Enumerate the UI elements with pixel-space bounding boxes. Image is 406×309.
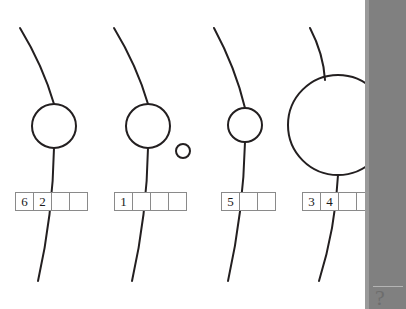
group-3-lower-tail-curve: [228, 142, 245, 281]
right-side-panel: ?: [365, 0, 406, 309]
cell-row-group-2[interactable]: 1: [114, 192, 187, 211]
diagram-canvas: 62 1 5 34 ?: [0, 0, 406, 309]
panel-glyph: ?: [375, 287, 385, 309]
cell-empty[interactable]: [132, 192, 151, 211]
cell-empty[interactable]: [239, 192, 258, 211]
group-1-lower-tail-curve: [38, 148, 54, 281]
cell-filled[interactable]: 2: [33, 192, 52, 211]
group-4-lower-tail-curve: [319, 175, 338, 281]
group-2-upper-stem-curve: [114, 28, 148, 104]
cell-filled[interactable]: 5: [221, 192, 240, 211]
group-2-satellite-circle: [176, 144, 190, 158]
cell-filled[interactable]: 1: [114, 192, 133, 211]
panel-corner-mark: ?: [373, 283, 403, 309]
cell-empty[interactable]: [69, 192, 88, 211]
group-3-upper-stem-curve: [214, 28, 245, 108]
cell-row-group-1[interactable]: 62: [15, 192, 88, 211]
panel-left-edge: [365, 0, 369, 309]
figure-strokes: [0, 0, 406, 309]
group-1-upper-stem-curve: [20, 28, 54, 104]
cell-filled[interactable]: 4: [320, 192, 339, 211]
cell-filled[interactable]: 3: [302, 192, 321, 211]
cell-empty[interactable]: [168, 192, 187, 211]
group-1-main-circle: [32, 104, 76, 148]
cell-empty[interactable]: [51, 192, 70, 211]
cell-filled[interactable]: 6: [15, 192, 34, 211]
group-3-main-circle: [228, 108, 262, 142]
cell-empty[interactable]: [338, 192, 357, 211]
group-2-main-circle: [126, 104, 170, 148]
cell-empty[interactable]: [150, 192, 169, 211]
cell-empty[interactable]: [257, 192, 276, 211]
group-2-lower-tail-curve: [132, 148, 148, 281]
group-4-upper-stem-curve: [310, 28, 325, 80]
cell-row-group-3[interactable]: 5: [221, 192, 276, 211]
